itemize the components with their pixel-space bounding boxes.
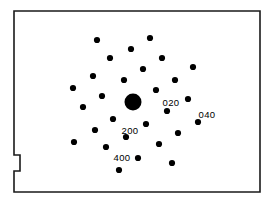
spot-index-label-040: 040 (199, 109, 216, 120)
diffraction-spot (110, 116, 116, 122)
diffraction-spot (169, 160, 175, 166)
diffraction-spot (80, 104, 86, 110)
diffraction-spot (190, 64, 196, 70)
diffraction-pattern-canvas: 020040200400 (0, 0, 273, 203)
diffraction-spot (143, 121, 149, 127)
diffraction-spot (164, 108, 170, 114)
diffraction-spot (71, 139, 77, 145)
diffraction-spot (121, 77, 127, 83)
diffraction-spot (94, 37, 100, 43)
spot-index-label-020: 020 (163, 97, 180, 108)
diffraction-spot (92, 127, 98, 133)
diffraction-spot (153, 87, 159, 93)
diffraction-spot (107, 55, 113, 61)
diffraction-spot-layer (70, 35, 201, 173)
diffraction-spot (90, 73, 96, 79)
spot-index-label-400: 400 (114, 152, 131, 163)
spot-index-label-200: 200 (122, 125, 139, 136)
diffraction-spot (172, 77, 178, 83)
diffraction-spot (159, 55, 165, 61)
transmitted-beam-spot (125, 94, 142, 111)
diffraction-spot (116, 167, 122, 173)
diffraction-spot (195, 119, 201, 125)
diffraction-spot (175, 130, 181, 136)
diffraction-spot (185, 96, 191, 102)
diffraction-spot (103, 144, 109, 150)
diffraction-spot (128, 46, 134, 52)
diffraction-spot (156, 141, 162, 147)
diffraction-spot (140, 66, 146, 72)
diffraction-figure: 020040200400 (0, 0, 273, 203)
diffraction-spot (147, 35, 153, 41)
diffraction-spot (135, 155, 141, 161)
diffraction-spot (70, 85, 76, 91)
diffraction-spot (99, 93, 105, 99)
